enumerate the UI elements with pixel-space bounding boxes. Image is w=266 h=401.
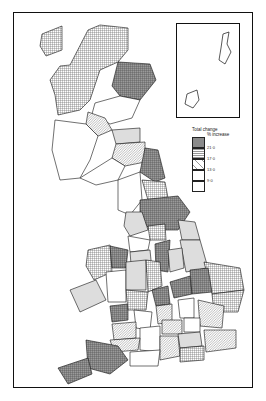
legend-swatch-dark	[192, 137, 205, 148]
region-humberside	[178, 220, 200, 240]
region-cambs	[190, 268, 212, 294]
legend: Total change % increase 21·0 17·0 13·0 9…	[192, 127, 252, 192]
region-london	[184, 318, 200, 332]
region-avon	[112, 322, 136, 340]
region-hereford	[126, 290, 148, 310]
region-fife-lothian	[112, 128, 140, 144]
region-west-yorks	[148, 224, 166, 240]
region-cumbria	[118, 172, 142, 215]
region-western-isles	[40, 26, 62, 56]
region-durham	[142, 180, 168, 200]
legend-row: 21·0	[192, 137, 252, 148]
legend-row: 9·0	[192, 170, 252, 181]
islands-outline	[177, 24, 241, 119]
region-northumberland	[140, 148, 165, 182]
region-kent	[204, 330, 236, 352]
region-wiltshire	[140, 326, 160, 352]
region-surrey	[178, 332, 202, 348]
legend-swatch-blank	[192, 181, 205, 192]
region-beds	[178, 298, 194, 318]
region-powys	[106, 270, 126, 302]
legend-swatch-grid	[192, 148, 205, 159]
legend-row	[192, 181, 252, 192]
region-leics	[168, 248, 184, 272]
region-sussex	[180, 346, 204, 362]
region-grampian	[112, 62, 156, 100]
region-berks	[162, 320, 182, 334]
shetland-orkney-inset	[176, 23, 240, 118]
legend-swatch-vertical	[192, 170, 205, 181]
legend-row: 13·0	[192, 159, 252, 170]
region-hampshire	[160, 336, 180, 360]
region-dyfed	[70, 280, 106, 312]
region-gwent	[110, 304, 128, 322]
region-cornwall	[58, 358, 92, 384]
region-salop	[126, 260, 146, 290]
region-northants	[170, 276, 192, 298]
legend-swatch-diagonal	[192, 159, 205, 170]
region-west-midlands	[146, 260, 162, 292]
region-clwyd	[110, 246, 128, 268]
region-merseyside	[128, 236, 150, 252]
legend-row: 17·0	[192, 148, 252, 159]
region-dorset	[130, 350, 160, 366]
